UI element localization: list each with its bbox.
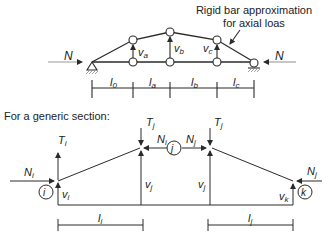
hinge-node-a-bottom bbox=[129, 58, 137, 66]
load-label-right: N bbox=[275, 49, 284, 63]
vj-right-label: vj bbox=[198, 178, 206, 192]
left-slope-bar bbox=[58, 148, 140, 181]
span-lb-label: lb bbox=[191, 76, 198, 90]
hinge-node-c-top bbox=[213, 36, 221, 44]
top-diagram bbox=[48, 28, 296, 98]
Nj-right-label: Nj bbox=[307, 165, 317, 179]
node-j-circle bbox=[167, 141, 181, 155]
vk-label: vk bbox=[279, 190, 290, 204]
hinge-node-a-top bbox=[129, 36, 137, 44]
Tj-right-label: Tj bbox=[214, 116, 223, 130]
Tj-left-label: Tj bbox=[146, 116, 155, 130]
pin-support-icon bbox=[87, 62, 97, 70]
li-label: li bbox=[98, 212, 102, 226]
structural-diagram: N N va vb vc l0 la lb lc bbox=[0, 0, 331, 245]
va-label: va bbox=[138, 46, 149, 60]
hinge-node-b-top bbox=[166, 28, 174, 36]
vj-left-label: vj bbox=[145, 178, 153, 192]
span-lc-label: lc bbox=[233, 76, 239, 90]
span-la-label: la bbox=[149, 76, 156, 90]
annotation-pointer-arrow bbox=[230, 30, 240, 44]
vc-label: vc bbox=[203, 42, 213, 56]
rigid-bar-polygon bbox=[92, 32, 254, 62]
hinge-node-b-bottom bbox=[166, 58, 174, 66]
Nj-mid-label: Nj bbox=[186, 133, 196, 147]
hinge-node-c-bottom bbox=[213, 58, 221, 66]
Ni-left-label: Ni bbox=[24, 166, 34, 180]
vb-label: vb bbox=[174, 42, 185, 56]
ground-hatch-left bbox=[86, 71, 98, 74]
lj-label: lj bbox=[248, 212, 252, 226]
Ni-mid-label: Ni bbox=[157, 133, 167, 147]
right-slope-bar bbox=[212, 148, 293, 181]
span-l0-label: l0 bbox=[110, 76, 117, 90]
vi-label: vi bbox=[62, 188, 70, 202]
node-i-circle bbox=[39, 185, 53, 199]
ground-hatch-right bbox=[248, 69, 260, 72]
Ti-label: Ti bbox=[58, 134, 67, 148]
roller-support-icon bbox=[250, 59, 258, 67]
load-label-left: N bbox=[64, 49, 73, 63]
